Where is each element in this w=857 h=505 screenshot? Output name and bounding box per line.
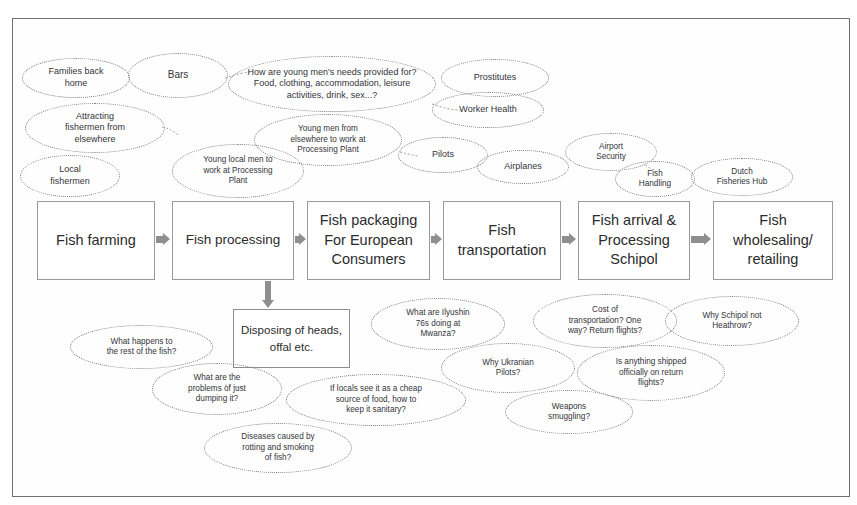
bubble-line: Plant — [203, 176, 272, 187]
sub-box-label: Disposing of heads, — [241, 324, 342, 336]
bubble-line: Worker Health — [459, 104, 516, 116]
bubble-line: Heathrow? — [702, 321, 761, 332]
bubble-line: Dutch — [717, 167, 768, 178]
bubble-line: If locals see it as a cheap — [330, 384, 422, 395]
bubble-line: Why Schipol not — [702, 311, 761, 322]
bubble-young-mens-needs[interactable]: How are young men's needs provided for? … — [228, 56, 436, 112]
process-box-label: Fish — [759, 212, 786, 228]
bubble-line: home — [48, 78, 103, 90]
bubble-line: Security — [596, 152, 626, 163]
bubble-families-back-home[interactable]: Families back home — [22, 58, 130, 98]
bubble-line: Young local men to — [203, 155, 272, 166]
bubble-ilyushin-76s[interactable]: What are Ilyushin 76s doing at Mwanza? — [371, 298, 505, 350]
bubble-cheap-source-food[interactable]: If locals see it as a cheap source of fo… — [286, 374, 466, 426]
process-box-label: transportation — [458, 242, 547, 258]
bubble-line: smuggling? — [548, 412, 590, 423]
bubble-line: Pilots? — [482, 368, 533, 379]
bubble-line: way? Return flights? — [568, 326, 642, 337]
bubble-line: the rest of the fish? — [107, 347, 177, 358]
bubble-line: What happens to — [107, 337, 177, 348]
sub-box-disposing[interactable]: Disposing of heads, offal etc. — [233, 309, 350, 368]
bubble-line: problems of just — [188, 384, 246, 395]
bubble-line: What are Ilyushin — [406, 308, 469, 319]
process-box-label: Fish processing — [186, 231, 281, 249]
bubble-line: Fish — [639, 169, 671, 180]
process-box-label: For European — [324, 232, 413, 248]
bubble-line: Attracting — [65, 111, 125, 123]
bubble-young-men-elsewhere[interactable]: Young men from elsewhere to work at Proc… — [254, 114, 402, 166]
bubble-line: Mwanza? — [406, 329, 469, 340]
bubble-line: of fish? — [241, 453, 314, 464]
process-box-label: Fish farming — [56, 231, 136, 251]
bubble-schipol-not-heathrow[interactable]: Why Schipol not Heathrow? — [665, 296, 799, 346]
process-box-fish-farming[interactable]: Fish farming — [37, 201, 155, 280]
bubble-line: elsewhere — [65, 134, 125, 146]
bubble-line: Young men from — [290, 124, 365, 135]
bubble-attracting-fishermen[interactable]: Attracting fishermen from elsewhere — [25, 103, 165, 153]
bubble-line: Bars — [168, 69, 189, 82]
bubble-bars[interactable]: Bars — [128, 53, 228, 98]
bubble-line: Pilots — [432, 149, 454, 161]
bubble-line: Processing Plant — [290, 145, 365, 156]
process-box-label: Fish packaging — [320, 212, 418, 228]
process-box-fish-packaging[interactable]: Fish packaging For European Consumers — [307, 201, 430, 280]
bubble-line: How are young men's needs provided for? — [248, 67, 417, 79]
bubble-line: Fisheries Hub — [717, 177, 768, 188]
bubble-line: Handling — [639, 179, 671, 190]
process-box-label: wholesaling/ — [733, 232, 813, 248]
bubble-line: source of food, how to — [330, 395, 422, 406]
bubble-line: activities, drink, sex...? — [248, 90, 417, 102]
sub-box-label: offal etc. — [270, 341, 313, 353]
bubble-cost-of-transportation[interactable]: Cost of transportation? One way? Return … — [533, 294, 677, 348]
process-box-fish-wholesaling[interactable]: Fish wholesaling/ retailing — [713, 201, 833, 280]
bubble-line: Diseases caused by — [241, 432, 314, 443]
process-box-fish-processing[interactable]: Fish processing — [172, 201, 294, 280]
bubble-worker-health[interactable]: Worker Health — [432, 92, 544, 128]
bubble-line: dumping it? — [188, 394, 246, 405]
process-box-label: Fish arrival & — [592, 212, 677, 228]
bubble-line: work at Processing — [203, 166, 272, 177]
process-box-fish-arrival[interactable]: Fish arrival & Processing Schipol — [578, 201, 690, 280]
bubble-line: elsewhere to work at — [290, 135, 365, 146]
bubble-ukranian-pilots[interactable]: Why Ukranian Pilots? — [441, 343, 575, 393]
bubble-line: Food, clothing, accommodation, leisure — [248, 78, 417, 90]
process-box-label: Consumers — [331, 251, 405, 267]
bubble-line: 76s doing at — [406, 319, 469, 330]
process-box-fish-transportation[interactable]: Fish transportation — [443, 201, 561, 280]
bubble-line: Airport — [596, 142, 626, 153]
bubble-line: fishermen — [50, 176, 90, 188]
bubble-line: What are the — [188, 373, 246, 384]
bubble-line: Families back — [48, 66, 103, 78]
bubble-what-happens-rest[interactable]: What happens to the rest of the fish? — [70, 325, 213, 369]
process-box-label: retailing — [748, 251, 799, 267]
bubble-line: flights? — [616, 378, 687, 389]
bubble-line: Cost of — [568, 305, 642, 316]
bubble-weapons-smuggling[interactable]: Weapons smuggling? — [505, 390, 633, 434]
bubble-dutch-fisheries-hub[interactable]: Dutch Fisheries Hub — [691, 158, 793, 196]
bubble-line: Why Ukranian — [482, 358, 533, 369]
bubble-line: Airplanes — [504, 161, 542, 173]
bubble-line: officially on return — [616, 368, 687, 379]
bubble-diseases-rotting[interactable]: Diseases caused by rotting and smoking o… — [204, 423, 352, 473]
bubble-line: Prostitutes — [474, 72, 517, 84]
bubble-airplanes[interactable]: Airplanes — [477, 150, 569, 184]
bubble-local-fishermen[interactable]: Local fishermen — [20, 155, 120, 197]
process-box-label: Processing — [598, 232, 670, 248]
bubble-line: Is anything shipped — [616, 357, 687, 368]
bubble-fish-handling[interactable]: Fish Handling — [615, 161, 695, 197]
bubble-line: rotting and smoking — [241, 443, 314, 454]
bubble-pilots[interactable]: Pilots — [398, 137, 488, 173]
bubble-line: keep it sanitary? — [330, 405, 422, 416]
bubble-problems-dumping[interactable]: What are the problems of just dumping it… — [152, 363, 282, 415]
process-box-label: Schipol — [610, 251, 658, 267]
bubble-line: Weapons — [548, 402, 590, 413]
bubble-line: Local — [50, 164, 90, 176]
diagram-canvas: Families back home Bars How are young me… — [0, 0, 857, 505]
process-box-label: Fish — [488, 222, 515, 238]
bubble-line: fishermen from — [65, 122, 125, 134]
bubble-line: transportation? One — [568, 316, 642, 327]
